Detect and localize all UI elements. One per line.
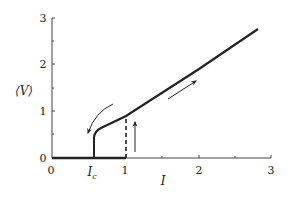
plot-curves (52, 29, 258, 158)
x-tick-1: 1 (122, 164, 129, 177)
y-axis-label: ⟨V⟩ (15, 84, 33, 98)
y-tick-0: 0 (40, 152, 47, 165)
y-tick-1: 1 (40, 105, 47, 118)
x-tick-2: 2 (196, 164, 203, 177)
x-tick-3: 3 (268, 164, 275, 177)
y-axis (52, 18, 55, 158)
y-tick-2: 2 (40, 58, 47, 71)
x-axis-label: I (160, 174, 166, 188)
iv-hysteresis-chart: 3 2 1 0 0 1 2 3 Ic ⟨V⟩ I (0, 0, 290, 201)
x-tick-0: 0 (48, 164, 55, 177)
arrow-increasing-icon (168, 81, 196, 99)
x-tick-ic: Ic (86, 165, 97, 181)
y-tick-3: 3 (40, 12, 47, 25)
resistive-branch (94, 29, 258, 137)
